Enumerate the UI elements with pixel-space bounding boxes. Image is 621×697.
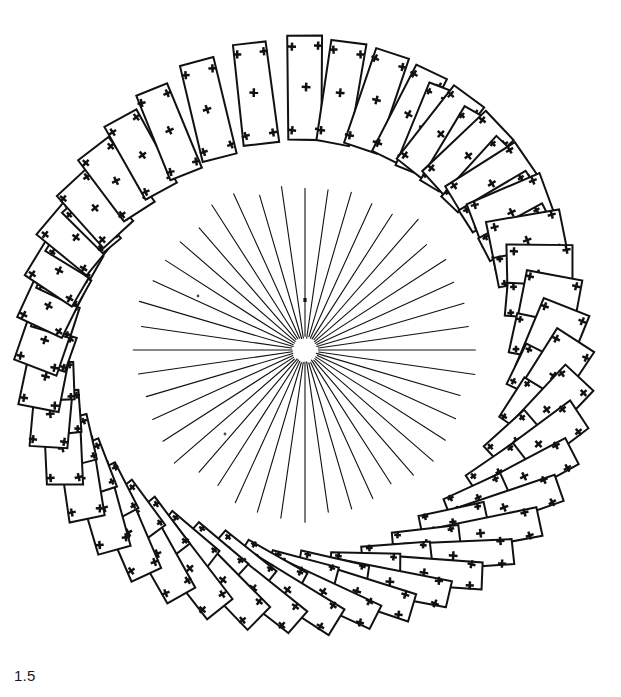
figure-svg (0, 0, 621, 697)
plus-marker-stroke (563, 249, 571, 251)
plus-marker-stroke (141, 99, 143, 107)
plus-marker-stroke (195, 157, 197, 165)
plus-marker-stroke (480, 529, 481, 538)
plus-marker-stroke (170, 168, 172, 176)
plus-marker-stroke (50, 367, 58, 369)
plus-marker-stroke (46, 478, 54, 479)
plus-marker-stroke (122, 537, 130, 538)
plus-marker-stroke (68, 512, 76, 514)
plus-marker-stroke (340, 88, 341, 97)
plus-marker-stroke (496, 259, 503, 260)
plus-marker-stroke (507, 312, 514, 313)
plus-marker-stroke (272, 128, 274, 136)
plus-marker-stroke (500, 537, 501, 545)
plus-marker-stroke (349, 131, 350, 139)
burst-speck (197, 295, 200, 298)
plus-marker-stroke (96, 545, 104, 546)
plus-marker-stroke (29, 439, 37, 440)
plus-marker-stroke (517, 319, 524, 320)
plus-marker-stroke (20, 397, 28, 398)
plus-marker-stroke (46, 413, 55, 414)
plus-marker-stroke (398, 611, 399, 619)
plate (287, 35, 323, 140)
plus-marker-stroke (291, 126, 292, 134)
burst-speck (224, 433, 227, 436)
figure-canvas: 1.5 (0, 0, 621, 697)
panel-label-1-5: 1.5 (14, 668, 35, 683)
plus-marker-stroke (423, 542, 424, 549)
plus-marker-stroke (185, 71, 186, 79)
burst-speck (303, 298, 306, 302)
plus-marker-stroke (424, 514, 426, 521)
plus-marker-stroke (453, 551, 454, 560)
plus-marker-stroke (263, 47, 264, 55)
plus-marker-stroke (75, 476, 83, 478)
plus-marker-stroke (321, 126, 322, 134)
plus-marker-stroke (17, 355, 25, 357)
plus-marker-stroke (402, 63, 403, 71)
plus-marker-stroke (393, 554, 394, 561)
plus-marker-stroke (471, 204, 479, 206)
plus-marker-stroke (526, 275, 534, 277)
plus-marker-stroke (477, 503, 478, 510)
plus-marker-stroke (60, 441, 68, 442)
